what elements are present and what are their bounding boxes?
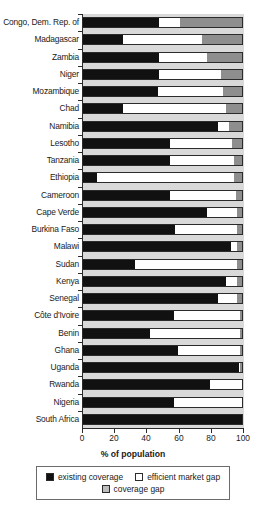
stacked-bar bbox=[82, 241, 243, 252]
legend-row-bottom: coverage gap bbox=[40, 483, 226, 495]
stacked-bar bbox=[82, 310, 243, 321]
category-label: Malawi bbox=[54, 241, 79, 252]
bar-segment-gap bbox=[237, 208, 242, 217]
bar-row bbox=[82, 328, 243, 339]
legend-label-efficient-market-gap: efficient market gap bbox=[147, 471, 220, 483]
y-axis-tick bbox=[78, 31, 82, 32]
bar-segment-gap bbox=[234, 156, 242, 165]
bar-row bbox=[82, 34, 243, 45]
bar-row bbox=[82, 103, 243, 114]
bar-segment-market bbox=[170, 191, 235, 200]
stacked-bar bbox=[82, 138, 243, 149]
y-axis-tick bbox=[78, 307, 82, 308]
bar-segment-market bbox=[158, 87, 223, 96]
bar-row bbox=[82, 259, 243, 270]
x-axis-tick-label: 40 bbox=[131, 433, 161, 444]
bar-segment-market bbox=[218, 294, 237, 303]
bar-segment-gap bbox=[237, 225, 242, 234]
bar-segment-market bbox=[123, 35, 203, 44]
y-axis-tick bbox=[78, 273, 82, 274]
bar-row bbox=[82, 276, 243, 287]
bar-segment-existing bbox=[83, 122, 218, 131]
y-axis-tick bbox=[78, 187, 82, 188]
y-axis-tick bbox=[78, 118, 82, 119]
bar-row bbox=[82, 172, 243, 183]
bar-segment-market bbox=[150, 329, 241, 338]
bar-segment-market bbox=[174, 398, 242, 407]
x-axis-tick-label: 0 bbox=[67, 433, 97, 444]
bar-segment-existing bbox=[83, 380, 210, 389]
bar-segment-gap bbox=[237, 242, 242, 251]
stacked-bar bbox=[82, 379, 243, 390]
category-label: Kenya bbox=[56, 276, 79, 287]
bar-segment-existing bbox=[83, 398, 174, 407]
category-label: Madagascar bbox=[34, 34, 79, 45]
bar-segment-existing bbox=[83, 294, 218, 303]
category-label: Cape Verde bbox=[36, 207, 79, 218]
bar-row bbox=[82, 414, 243, 425]
category-label: Niger bbox=[60, 69, 79, 80]
bar-segment-gap bbox=[240, 311, 242, 320]
stacked-bar bbox=[82, 345, 243, 356]
stacked-bar bbox=[82, 293, 243, 304]
bar-segment-existing bbox=[83, 87, 158, 96]
bar-segment-gap bbox=[223, 87, 242, 96]
bar-row bbox=[82, 310, 243, 321]
stacked-bar bbox=[82, 17, 243, 28]
category-label: Sudan bbox=[56, 259, 79, 270]
bar-segment-gap bbox=[232, 139, 242, 148]
y-axis-tick bbox=[78, 411, 82, 412]
bar-segment-market bbox=[170, 139, 232, 148]
bar-row bbox=[82, 69, 243, 80]
x-axis-tick-label: 80 bbox=[196, 433, 226, 444]
bar-row bbox=[82, 362, 243, 373]
bar-segment-gap bbox=[237, 260, 242, 269]
bar-row bbox=[82, 224, 243, 235]
bar-segment-gap bbox=[180, 18, 242, 27]
bar-segment-existing bbox=[83, 70, 159, 79]
y-axis-tick bbox=[78, 100, 82, 101]
stacked-bar bbox=[82, 224, 243, 235]
category-label: Senegal bbox=[49, 293, 79, 304]
bar-row bbox=[82, 293, 243, 304]
stacked-bar bbox=[82, 397, 243, 408]
x-axis-tick-label: 20 bbox=[99, 433, 129, 444]
bar-segment-existing bbox=[83, 329, 150, 338]
bar-segment-gap bbox=[240, 346, 242, 355]
bar-segment-market bbox=[159, 70, 221, 79]
bar-segment-market bbox=[159, 53, 207, 62]
y-axis-tick bbox=[78, 325, 82, 326]
y-axis-tick bbox=[78, 152, 82, 153]
bar-segment-market bbox=[170, 156, 234, 165]
x-axis-tick-label: 100 bbox=[228, 433, 258, 444]
stacked-bar bbox=[82, 207, 243, 218]
stacked-bar bbox=[82, 362, 243, 373]
bar-segment-existing bbox=[83, 277, 226, 286]
bar-segment-gap bbox=[234, 173, 242, 182]
stacked-bar bbox=[82, 155, 243, 166]
bar-segment-existing bbox=[83, 35, 123, 44]
stacked-bar bbox=[82, 276, 243, 287]
category-label: Uganda bbox=[51, 362, 79, 373]
legend-item-existing-coverage: existing coverage bbox=[46, 471, 123, 483]
bar-segment-existing bbox=[83, 346, 178, 355]
y-axis-tick bbox=[78, 256, 82, 257]
bar-segment-market bbox=[218, 122, 229, 131]
category-label: Lesotho bbox=[50, 138, 79, 149]
bar-segment-market bbox=[135, 260, 237, 269]
bar-segment-market bbox=[175, 225, 237, 234]
bar-segment-market bbox=[207, 208, 237, 217]
bar-segment-gap bbox=[229, 122, 242, 131]
bar-segment-existing bbox=[83, 225, 175, 234]
stacked-bar bbox=[82, 52, 243, 63]
legend-item-coverage-gap: coverage gap bbox=[102, 483, 165, 495]
category-label: Ethiopia bbox=[50, 172, 79, 183]
legend-swatch-efficient-market-gap-icon bbox=[135, 473, 143, 481]
legend-row-top: existing coverage efficient market gap bbox=[40, 471, 226, 483]
bar-row bbox=[82, 379, 243, 390]
bar-segment-existing bbox=[83, 363, 239, 372]
bar-segment-market bbox=[97, 173, 234, 182]
stacked-bar-chart: Congo, Dem. Rep. ofMadagascarZambiaNiger… bbox=[0, 0, 266, 508]
stacked-bar bbox=[82, 328, 243, 339]
bar-segment-market bbox=[178, 346, 240, 355]
